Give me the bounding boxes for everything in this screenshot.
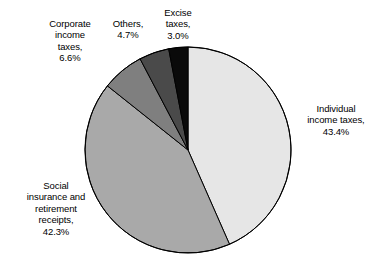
pie-slices-group <box>85 47 291 253</box>
slice-label-individual-income-taxes: Individual income taxes, 43.4% <box>296 103 376 137</box>
pie-chart-figure: Individual income taxes, 43.4% Social in… <box>0 0 376 268</box>
slice-label-excise-taxes: Excise taxes, 3.0% <box>155 7 201 41</box>
slice-label-others: Others, 4.7% <box>104 18 152 41</box>
slice-label-social-insurance-and-retirement-receipts: Social insurance and retirement receipts… <box>6 180 106 237</box>
slice-label-corporate-income-taxes: Corporate income taxes, 6.6% <box>39 18 101 64</box>
